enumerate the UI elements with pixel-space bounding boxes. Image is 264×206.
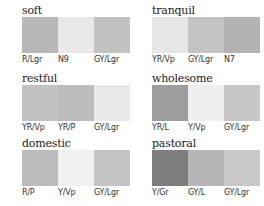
color-swatch: [58, 17, 94, 53]
swatch-label: YR/Vp: [22, 123, 58, 133]
label-row: YR/L Y/Vp GY/Lgr: [152, 123, 260, 133]
swatch-row: [22, 150, 130, 186]
label-row: R/Lgr N9 GY/Lgr: [22, 55, 130, 65]
palette-title: restful: [22, 73, 57, 85]
color-swatch: [188, 17, 224, 53]
color-swatch: [188, 150, 224, 186]
label-row: Y/Gr GY/L GY/Lgr: [152, 188, 260, 198]
swatch-label: YR/P: [58, 123, 94, 133]
swatch-label: R/P: [22, 188, 58, 198]
color-swatch: [94, 17, 130, 53]
swatch-label: YR/L: [152, 123, 188, 133]
label-row: R/P Y/Vp GY/Lgr: [22, 188, 130, 198]
color-swatch: [224, 150, 260, 186]
color-swatch: [188, 85, 224, 121]
swatch-label: N9: [58, 55, 94, 65]
palette-title: tranquil: [152, 5, 195, 17]
color-swatch: [224, 17, 260, 53]
swatch-row: [152, 17, 260, 53]
label-row: YR/Vp GY/Lgr N7: [152, 55, 260, 65]
palette-title: soft: [22, 5, 42, 17]
label-row: YR/Vp YR/P GY/Lgr: [22, 123, 130, 133]
color-swatch: [152, 85, 188, 121]
palette-title: domestic: [22, 138, 71, 150]
swatch-label: Y/Vp: [58, 188, 94, 198]
color-swatch: [152, 17, 188, 53]
color-swatch: [58, 85, 94, 121]
color-swatch: [94, 85, 130, 121]
palette-title: pastoral: [152, 138, 196, 150]
swatch-row: [152, 85, 260, 121]
color-swatch: [22, 17, 58, 53]
swatch-row: [152, 150, 260, 186]
color-swatch: [152, 150, 188, 186]
swatch-row: [22, 85, 130, 121]
swatch-label: GY/Lgr: [188, 55, 224, 65]
swatch-row: [22, 17, 130, 53]
palette-title: wholesome: [152, 73, 213, 85]
swatch-label: GY/Lgr: [224, 123, 260, 133]
color-swatch: [22, 150, 58, 186]
color-swatch: [58, 150, 94, 186]
swatch-label: Y/Gr: [152, 188, 188, 198]
swatch-label: GY/Lgr: [94, 188, 130, 198]
swatch-label: R/Lgr: [22, 55, 58, 65]
color-swatch: [94, 150, 130, 186]
color-swatch: [224, 85, 260, 121]
swatch-label: GY/Lgr: [94, 55, 130, 65]
swatch-label: YR/Vp: [152, 55, 188, 65]
color-swatch: [22, 85, 58, 121]
swatch-label: N7: [224, 55, 260, 65]
swatch-label: GY/L: [188, 188, 224, 198]
swatch-label: Y/Vp: [188, 123, 224, 133]
swatch-label: GY/Lgr: [94, 123, 130, 133]
swatch-label: GY/Lgr: [224, 188, 260, 198]
